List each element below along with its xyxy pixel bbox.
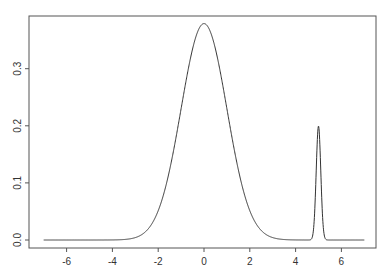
x-axis: -6-4-20246 (62, 248, 344, 267)
y-axis: 0.00.10.20.3 (12, 61, 29, 247)
x-tick-label: -6 (62, 256, 71, 267)
x-tick-label: 4 (293, 256, 299, 267)
x-tick-label: 6 (339, 256, 345, 267)
x-tick-label: 0 (201, 256, 207, 267)
density-curve (44, 24, 365, 240)
x-tick-label: 2 (247, 256, 253, 267)
y-tick-label: 0.0 (12, 233, 23, 247)
density-chart: -6-4-20246 0.00.10.20.3 (0, 0, 391, 275)
x-tick-label: -4 (108, 256, 117, 267)
x-tick-label: -2 (154, 256, 163, 267)
y-tick-label: 0.1 (12, 176, 23, 190)
y-tick-label: 0.3 (12, 61, 23, 75)
y-tick-label: 0.2 (12, 118, 23, 132)
plot-frame (29, 16, 376, 248)
